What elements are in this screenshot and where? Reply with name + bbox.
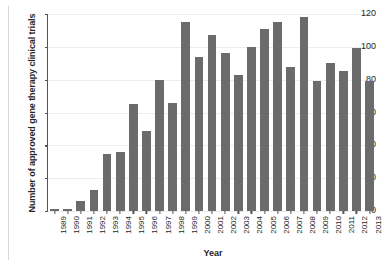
bar: [352, 48, 361, 211]
bar: [208, 35, 217, 211]
x-tick-mark: [67, 211, 68, 214]
bar-slot: [337, 14, 350, 211]
bar: [142, 131, 151, 211]
bar: [326, 63, 335, 211]
bar-slot: [74, 14, 87, 211]
bar: [339, 71, 348, 211]
x-tick-mark: [198, 211, 199, 214]
x-tick-slot: 2003: [232, 211, 245, 247]
bar-slot: [101, 14, 114, 211]
bar: [90, 190, 99, 211]
bar-slot: [363, 14, 376, 211]
bar: [103, 154, 112, 211]
bar: [116, 152, 125, 211]
x-tick-mark: [369, 211, 370, 214]
x-tick-mark: [343, 211, 344, 214]
bar-slot: [271, 14, 284, 211]
bar-slot: [311, 14, 324, 211]
bar-slot: [179, 14, 192, 211]
x-tick-mark: [225, 211, 226, 214]
bar-slot: [153, 14, 166, 211]
bar: [273, 22, 282, 211]
bar: [234, 75, 243, 211]
x-tick-mark: [146, 211, 147, 214]
x-tick-slot: 2000: [192, 211, 205, 247]
x-tick-slot: 1995: [127, 211, 140, 247]
bar: [168, 103, 177, 211]
x-tick-slot: 2013: [363, 211, 376, 247]
x-tick-slot: 2004: [245, 211, 258, 247]
bar: [181, 22, 190, 211]
x-tick-mark: [80, 211, 81, 214]
x-tick-slot: 2011: [337, 211, 350, 247]
x-tick-mark: [264, 211, 265, 214]
x-tick-slot: 1994: [114, 211, 127, 247]
x-tick-slot: 2001: [206, 211, 219, 247]
bar-slot: [206, 14, 219, 211]
page-edge-rule: [8, 6, 9, 260]
x-tick-slot: 1999: [179, 211, 192, 247]
x-tick-mark: [356, 211, 357, 214]
bar-slot: [232, 14, 245, 211]
bar: [286, 67, 295, 211]
x-tick-slot: 2005: [258, 211, 271, 247]
x-tick-mark: [277, 211, 278, 214]
bar: [260, 29, 269, 211]
bar-slot: [350, 14, 363, 211]
bar-slot: [192, 14, 205, 211]
x-tick-slot: 1989: [48, 211, 61, 247]
bar: [300, 17, 309, 211]
x-tick-mark: [93, 211, 94, 214]
bar-slot: [87, 14, 100, 211]
bar: [221, 53, 230, 211]
x-tick-slot: 1992: [87, 211, 100, 247]
bar-slot: [245, 14, 258, 211]
chart-figure: Number of approved gene therapy clinical…: [0, 0, 386, 266]
bar-slot: [324, 14, 337, 211]
x-tick-slot: 2007: [284, 211, 297, 247]
y-axis-title: Number of approved gene therapy clinical…: [27, 8, 37, 218]
bar-series: [48, 14, 376, 211]
x-tick-slot: 1993: [101, 211, 114, 247]
bar-slot: [297, 14, 310, 211]
x-tick-mark: [330, 211, 331, 214]
bar: [195, 57, 204, 211]
x-tick-mark: [316, 211, 317, 214]
x-tick-slot: 1997: [153, 211, 166, 247]
bar-slot: [114, 14, 127, 211]
bar: [155, 80, 164, 211]
x-tick-mark: [211, 211, 212, 214]
x-tick-slot: 2006: [271, 211, 284, 247]
x-tick-slot: 2012: [350, 211, 363, 247]
x-tick-mark: [120, 211, 121, 214]
bar-slot: [127, 14, 140, 211]
bar-slot: [166, 14, 179, 211]
x-tick-slot: 1990: [61, 211, 74, 247]
bar: [247, 47, 256, 211]
x-tick-mark: [290, 211, 291, 214]
x-tick-mark: [251, 211, 252, 214]
x-tick-slot: 2002: [219, 211, 232, 247]
x-tick-mark: [238, 211, 239, 214]
plot-area: 020406080100120: [48, 14, 376, 211]
x-tick-mark: [106, 211, 107, 214]
x-tick-slot: 2009: [311, 211, 324, 247]
x-tick-slot: 2008: [297, 211, 310, 247]
bar: [76, 201, 85, 211]
bar-slot: [219, 14, 232, 211]
x-axis-title: Year: [48, 248, 378, 258]
bar: [365, 81, 374, 211]
bar-slot: [258, 14, 271, 211]
x-tick-slot: 1996: [140, 211, 153, 247]
x-tick-mark: [303, 211, 304, 214]
x-axis-ticks: 1989199019911992199319941995199619971998…: [48, 211, 376, 247]
bar-slot: [284, 14, 297, 211]
bar-slot: [140, 14, 153, 211]
x-tick-mark: [159, 211, 160, 214]
bar: [129, 104, 138, 211]
x-tick-mark: [54, 211, 55, 214]
x-tick-slot: 2010: [324, 211, 337, 247]
bar: [313, 81, 322, 211]
x-tick-mark: [172, 211, 173, 214]
x-tick-mark: [133, 211, 134, 214]
